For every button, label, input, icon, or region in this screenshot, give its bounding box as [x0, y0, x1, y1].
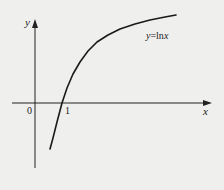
- function-label: y=lnx: [146, 31, 168, 41]
- ln-graph: [0, 0, 224, 190]
- function-label-arg: x: [164, 30, 168, 41]
- origin-label: 0: [27, 106, 32, 116]
- y-axis-arrow-icon: [32, 19, 38, 28]
- x-axis: [12, 100, 212, 106]
- y-axis-label: y: [25, 17, 30, 28]
- y-axis: [32, 19, 38, 168]
- x-axis-label: x: [203, 106, 208, 117]
- function-label-eq: =ln: [150, 30, 163, 41]
- tick-label-1: 1: [65, 106, 70, 116]
